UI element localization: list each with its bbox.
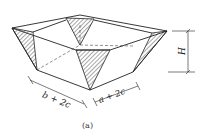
figure-caption: (a) xyxy=(82,121,93,130)
label-b-plus-2c: b + 2c xyxy=(41,90,72,110)
label-a-plus-2c: a + 2c xyxy=(97,86,127,105)
back-corner-slope xyxy=(66,18,94,45)
corner-slopes xyxy=(12,18,167,90)
label-h: H xyxy=(177,47,187,56)
pit-excavation-diagram: b + 2c a + 2c H (a) xyxy=(0,0,209,139)
